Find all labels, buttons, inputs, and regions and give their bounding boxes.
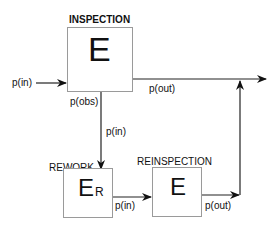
rework-subscript: R — [95, 186, 104, 198]
rework-box: E R — [63, 168, 113, 218]
rework-symbol: E — [78, 176, 94, 200]
reinspection-out-label: p(out) — [205, 200, 231, 212]
inspection-box: E — [67, 27, 133, 92]
input-label: p(in) — [12, 77, 32, 89]
diagram-connectors — [0, 0, 279, 234]
reinspection-symbol: E — [170, 175, 186, 199]
rework-out-label: p(in) — [115, 200, 135, 212]
output-label: p(out) — [149, 83, 175, 95]
obs-label: p(obs) — [70, 96, 98, 108]
reinspection-box: E — [152, 167, 202, 217]
rework-in-label: p(in) — [106, 126, 126, 138]
inspection-symbol: E — [88, 32, 111, 66]
inspection-title: INSPECTION — [69, 14, 130, 26]
